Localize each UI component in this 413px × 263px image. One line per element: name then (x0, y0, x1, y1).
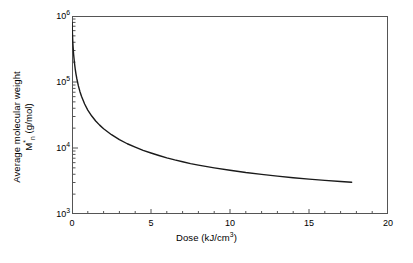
y-tick-label-1e6: 106 (46, 11, 70, 21)
y-axis-title-symbol: M (23, 143, 34, 151)
y-tick-exp-3: 3 (66, 207, 70, 214)
x-axis-title-main: Dose (kJ/cm (176, 232, 230, 243)
x-axis-title-close: ) (234, 232, 237, 243)
y-axis-title-subscript: n (29, 136, 36, 140)
plot-area (72, 16, 388, 214)
y-tick-exp-4: 4 (66, 141, 70, 148)
y-axis-title-line2: M*n (g/mol) (23, 27, 35, 227)
y-tick-exp-6: 6 (66, 9, 70, 16)
y-axis-title: Average molecular weight M*n (g/mol) (11, 27, 35, 227)
y-tick-label-1e5: 105 (46, 77, 70, 87)
x-tick-label-10: 10 (225, 218, 235, 228)
x-axis-title: Dose (kJ/cm3) (0, 232, 413, 243)
plot-svg (72, 16, 388, 214)
x-tick-label-0: 0 (69, 218, 74, 228)
y-axis-title-line1: Average molecular weight (11, 27, 23, 227)
x-tick-label-5: 5 (148, 218, 153, 228)
x-tick-label-20: 20 (383, 218, 393, 228)
y-tick-label-1e3: 103 (46, 209, 70, 219)
y-tick-label-1e4: 104 (46, 143, 70, 153)
chart-figure: 106 105 104 103 0 5 10 15 20 Dose (kJ/cm… (0, 0, 413, 263)
y-axis-title-units: (g/mol) (23, 103, 34, 136)
plot-frame (73, 17, 388, 214)
x-tick-label-15: 15 (304, 218, 314, 228)
y-tick-exp-5: 5 (66, 75, 70, 82)
y-axis-title-star: * (22, 140, 29, 143)
